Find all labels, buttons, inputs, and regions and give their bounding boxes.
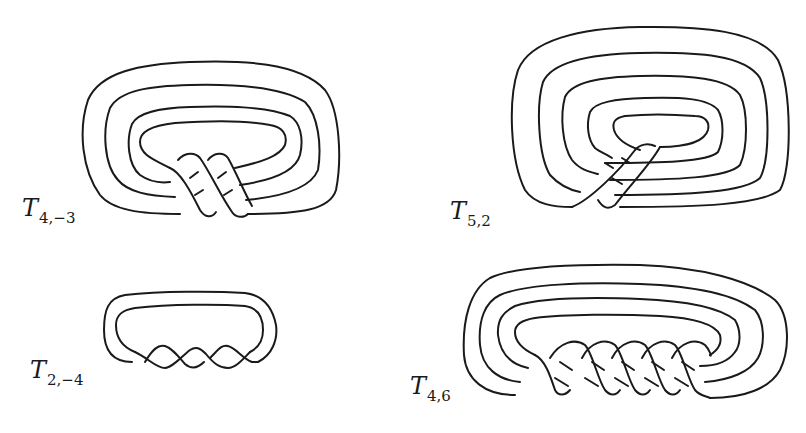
label-main: T [410, 372, 426, 400]
label-subscript: 5,2 [467, 212, 491, 230]
label-subscript: 4,6 [427, 387, 451, 405]
label-t4-6: T4,6 [410, 374, 451, 398]
label-main: T [450, 197, 466, 225]
label-t5-2: T5,2 [450, 199, 491, 223]
knot-t5-2-drawing [0, 0, 806, 240]
knot-t4-6-drawing [0, 240, 806, 433]
knot-diagram-t5-2: T5,2 [0, 0, 806, 240]
knot-diagram-t4-6: T4,6 [0, 240, 806, 433]
